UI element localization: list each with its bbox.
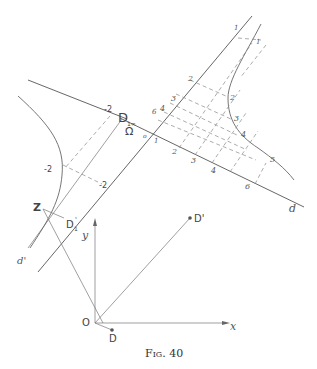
curve-label-4: 4 [240,130,246,139]
y-axis-arrow-icon [93,218,97,226]
curve-label-5: 5 [270,155,275,164]
scale-d-0: o [143,132,147,139]
hyperbola-left-branch [18,96,62,248]
label-z: Z [33,201,41,214]
line-upper-left [28,80,127,119]
hyperbola-right-branch [228,24,294,180]
line-o-d [95,323,112,330]
scale-d-3: 3 [191,156,196,165]
curve-label-3: 3 [234,114,239,123]
label-o: O [82,317,90,328]
label-d1prime-mark: ' [75,216,77,224]
curve-label-1: 1 [256,38,260,46]
label-line-d-prime: d' [17,255,26,266]
label-dprime: D' [194,213,204,224]
scale-upper-2: 2 [187,74,193,83]
label-x-axis: x [230,320,237,333]
scale-upper-3: 3 [171,94,176,103]
label-d1prime: D [66,219,74,230]
scale-d-1: 1 [154,137,158,145]
label-d: D [109,333,117,344]
figure-caption: Fig. 40 [145,347,183,360]
curve-label-2: 2 [229,93,235,102]
label-line-d: d [289,202,296,215]
label-omega: Ω [125,125,133,138]
neg-label-upper: -2 [104,105,112,114]
label-y-axis: y [81,229,89,242]
scale-upper-6: 6 [152,108,157,116]
line-o-dprime [95,218,190,323]
scale-d-2: 2 [171,147,177,156]
projective-diagram: D 1∞ Ω Z D 1 ' D' O D y x d d' o 1 2 3 4… [0,0,317,369]
point-dprime [188,216,192,220]
scale-d-4: 4 [210,166,216,175]
line-z-d1prime [43,209,64,218]
line-d-prime [38,16,252,272]
label-d1prime-sub: 1 [74,225,78,232]
neg-label-left: -2 [44,165,52,174]
scale-upper-4: 4 [159,104,165,113]
x-axis-arrow-icon [222,321,230,325]
point-d [110,328,114,332]
scale-upper-1: 1 [234,24,238,32]
neg-label-lower: -2 [99,181,107,190]
scale-d-6: 6 [245,182,250,191]
